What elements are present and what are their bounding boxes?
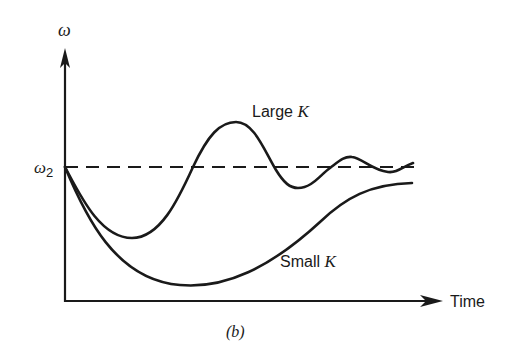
x-axis — [64, 295, 443, 307]
diagram-canvas: ω Time ω2 Large K Small K (b) — [0, 0, 516, 360]
x-axis-label: Time — [450, 293, 485, 310]
label-small-k: Small K — [280, 252, 337, 271]
figure-caption: (b) — [226, 323, 245, 341]
curve-large-k — [65, 122, 413, 238]
label-large-k: Large K — [252, 102, 310, 121]
y-axis-label: ω — [58, 20, 71, 40]
curve-small-k — [65, 167, 412, 285]
reference-line-label: ω2 — [34, 158, 53, 180]
